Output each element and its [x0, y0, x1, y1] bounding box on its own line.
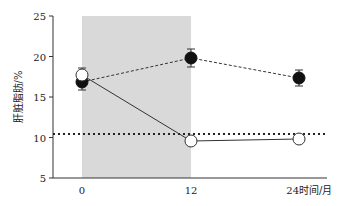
data-point [76, 69, 88, 81]
x-tick-label: 24 [286, 185, 299, 196]
y-tick-label: 25 [33, 11, 46, 22]
data-point [185, 135, 197, 147]
y-tick-label: 5 [40, 173, 46, 184]
data-point [185, 52, 197, 64]
data-point [293, 133, 305, 145]
x-axis-title: 时间/月 [299, 184, 332, 196]
y-ticks [49, 16, 53, 178]
y-tick-label: 10 [33, 133, 46, 144]
y-axis-title: 肝脏脂肪/% [12, 71, 24, 124]
y-tick-label: 15 [33, 92, 46, 103]
y-tick-label: 20 [33, 52, 46, 63]
data-point [293, 72, 305, 84]
shaded-region [82, 16, 191, 178]
chart-canvas: 25 20 15 10 5 肝脏脂肪/% 0 12 24 时间/月 [0, 0, 354, 206]
x-tick-label: 12 [185, 185, 198, 196]
x-tick-label: 0 [79, 185, 85, 196]
